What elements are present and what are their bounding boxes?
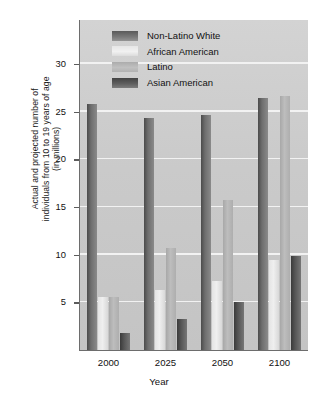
bar bbox=[144, 118, 154, 350]
gridline bbox=[80, 158, 308, 159]
x-tick-label: 2050 bbox=[198, 357, 248, 368]
legend-label: Latino bbox=[147, 61, 173, 72]
y-tick bbox=[74, 112, 79, 113]
gridline bbox=[80, 206, 308, 207]
legend-item: Non-Latino White bbox=[112, 28, 220, 44]
y-tick-label: 5 bbox=[36, 296, 66, 307]
y-tick-label: 15 bbox=[36, 201, 66, 212]
y-tick-label: 20 bbox=[36, 153, 66, 164]
y-tick bbox=[74, 302, 79, 303]
chart-legend: Non-Latino WhiteAfrican AmericanLatinoAs… bbox=[112, 28, 220, 90]
bar bbox=[280, 96, 290, 350]
bar bbox=[234, 302, 244, 350]
bar bbox=[223, 200, 233, 350]
y-tick-label: 30 bbox=[36, 58, 66, 69]
legend-label: Asian American bbox=[147, 77, 213, 88]
bar bbox=[212, 281, 222, 350]
bar bbox=[120, 333, 130, 350]
bar bbox=[201, 115, 211, 350]
x-axis-title: Year bbox=[0, 376, 318, 387]
legend-item: African American bbox=[112, 44, 220, 60]
x-tick-label: 2000 bbox=[84, 357, 134, 368]
legend-item: Asian American bbox=[112, 75, 220, 91]
y-tick-label: 10 bbox=[36, 249, 66, 260]
x-tick-label: 2100 bbox=[255, 357, 305, 368]
bar bbox=[177, 319, 187, 350]
legend-item: Latino bbox=[112, 59, 220, 75]
bar bbox=[87, 104, 97, 350]
legend-swatch bbox=[112, 62, 138, 72]
bar bbox=[155, 290, 165, 350]
y-tick-label: 25 bbox=[36, 106, 66, 117]
y-tick bbox=[74, 255, 79, 256]
y-tick bbox=[74, 159, 79, 160]
legend-label: Non-Latino White bbox=[147, 30, 220, 41]
legend-swatch bbox=[112, 46, 138, 56]
bar bbox=[291, 256, 301, 350]
legend-swatch bbox=[112, 78, 138, 88]
bar bbox=[166, 248, 176, 350]
bar bbox=[109, 297, 119, 350]
bar bbox=[98, 297, 108, 350]
y-tick bbox=[74, 64, 79, 65]
x-axis-line bbox=[79, 350, 308, 351]
chart-figure: Actual and projected number of individua… bbox=[0, 0, 318, 397]
bar bbox=[269, 260, 279, 350]
bar bbox=[258, 98, 268, 350]
y-axis-line bbox=[79, 20, 80, 351]
legend-label: African American bbox=[147, 46, 219, 57]
legend-swatch bbox=[112, 31, 138, 41]
gridline bbox=[80, 253, 308, 254]
y-tick bbox=[74, 207, 79, 208]
x-tick-label: 2025 bbox=[141, 357, 191, 368]
gridline bbox=[80, 110, 308, 111]
